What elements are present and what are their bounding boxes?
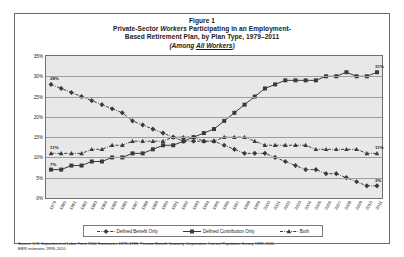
legend-item: Both — [280, 228, 309, 235]
data-point-marker — [334, 171, 339, 176]
data-point-label: 28% — [50, 76, 59, 81]
data-point-marker — [304, 78, 308, 82]
data-point-label: 31% — [375, 64, 384, 69]
data-point-marker — [273, 82, 277, 86]
gridline — [46, 117, 382, 118]
y-tick-label: 0% — [36, 196, 43, 201]
x-tick-label: 1989 — [150, 200, 159, 211]
data-point-marker — [100, 102, 105, 107]
data-point-marker — [364, 183, 369, 188]
x-tick-label: 1983 — [89, 200, 98, 211]
figure-subtitle: (Among All Workers) — [15, 42, 389, 50]
x-tick-label: 1980 — [58, 200, 67, 211]
data-point-marker — [130, 139, 135, 143]
data-point-marker — [190, 229, 194, 233]
data-point-marker — [293, 163, 298, 168]
x-tick-label: 1993 — [191, 200, 200, 211]
x-tick-label: 1981 — [69, 200, 78, 211]
x-tick-label: 1992 — [181, 200, 190, 211]
data-point-marker — [303, 167, 308, 172]
legend-label: Both — [300, 229, 309, 234]
gridline — [46, 157, 382, 158]
data-point-marker — [263, 151, 268, 156]
data-point-marker — [354, 179, 359, 184]
data-point-marker — [212, 127, 216, 131]
data-point-marker — [59, 86, 64, 91]
data-point-marker — [314, 78, 318, 82]
figure-container: Figure 1 Private-Sector Workers Particip… — [14, 13, 390, 244]
x-tick-label: 2008 — [344, 200, 353, 211]
x-tick-label: 2005 — [313, 200, 322, 211]
figure-title-line-2: Private-Sector Workers Participating in … — [15, 25, 389, 33]
legend-marker-square-icon — [183, 228, 201, 235]
data-point-marker — [150, 126, 155, 131]
x-tick-label: 1982 — [79, 200, 88, 211]
data-point-marker — [110, 106, 115, 111]
x-tick-label: 2011 — [374, 200, 383, 211]
y-tick-label: 25% — [34, 94, 43, 99]
y-axis-tick-labels: 0%5%10%15%20%25%30%35% — [23, 55, 45, 199]
x-tick-label: 1995 — [211, 200, 220, 211]
gridline — [46, 137, 382, 138]
plot-area: 28%7%11%31%11%3% — [45, 55, 383, 199]
x-tick-label: 2006 — [323, 200, 332, 211]
legend-label: Defined Benefit Only — [116, 229, 157, 234]
x-tick-label: 1999 — [252, 200, 261, 211]
legend-item: Defined Contribution Only — [183, 228, 254, 235]
data-point-marker — [151, 147, 155, 151]
data-point-marker — [49, 168, 53, 172]
data-point-marker — [242, 151, 247, 156]
legend-item: Defined Benefit Only — [97, 228, 158, 235]
gridline — [46, 76, 382, 77]
x-tick-label: 1998 — [242, 200, 251, 211]
x-tick-label: 2002 — [283, 200, 292, 211]
gridline — [46, 178, 382, 179]
data-point-marker — [294, 78, 298, 82]
figure-number: Figure 1 — [15, 17, 389, 25]
data-point-marker — [283, 78, 287, 82]
x-tick-label: 2004 — [303, 200, 312, 211]
data-point-marker — [161, 143, 165, 147]
legend-label: Defined Contribution Only — [203, 229, 255, 234]
data-point-marker — [252, 151, 257, 156]
data-point-marker — [103, 228, 108, 233]
y-tick-label: 10% — [34, 155, 43, 160]
y-tick-label: 15% — [34, 135, 43, 140]
x-tick-label: 1997 — [232, 200, 241, 211]
x-tick-label: 1979 — [48, 200, 57, 211]
data-point-label: 7% — [50, 162, 56, 167]
figure-title-block: Figure 1 Private-Sector Workers Particip… — [15, 14, 389, 50]
y-tick-label: 35% — [34, 54, 43, 59]
y-tick-label: 30% — [34, 74, 43, 79]
data-point-marker — [375, 183, 380, 188]
x-tick-label: 2010 — [364, 200, 373, 211]
data-point-marker — [161, 130, 166, 135]
data-point-marker — [140, 122, 145, 127]
x-tick-label: 1984 — [99, 200, 108, 211]
x-tick-label: 1994 — [201, 200, 210, 211]
data-point-marker — [80, 164, 84, 168]
legend-marker-triangle-icon — [280, 228, 298, 235]
title-part-c: Participating in an Employment- — [187, 25, 291, 32]
data-point-label: 3% — [375, 178, 381, 183]
data-point-marker — [89, 147, 94, 151]
data-point-marker — [232, 111, 236, 115]
data-point-marker — [171, 143, 175, 147]
data-point-marker — [243, 103, 247, 107]
x-tick-label: 1988 — [140, 200, 149, 211]
data-point-marker — [344, 70, 348, 74]
data-point-marker — [222, 143, 227, 148]
x-tick-label: 1996 — [221, 200, 230, 211]
data-point-marker — [324, 171, 329, 176]
x-tick-label: 1986 — [120, 200, 129, 211]
title-part-workers: Workers — [160, 25, 187, 32]
x-tick-label: 2001 — [272, 200, 281, 211]
data-point-marker — [324, 147, 329, 151]
x-tick-label: 2000 — [262, 200, 271, 211]
x-tick-label: 1985 — [109, 200, 118, 211]
data-point-marker — [131, 151, 135, 155]
x-tick-label: 2007 — [333, 200, 342, 211]
x-tick-label: 1990 — [160, 200, 169, 211]
x-tick-label: 2009 — [354, 200, 363, 211]
data-point-marker — [283, 159, 288, 164]
